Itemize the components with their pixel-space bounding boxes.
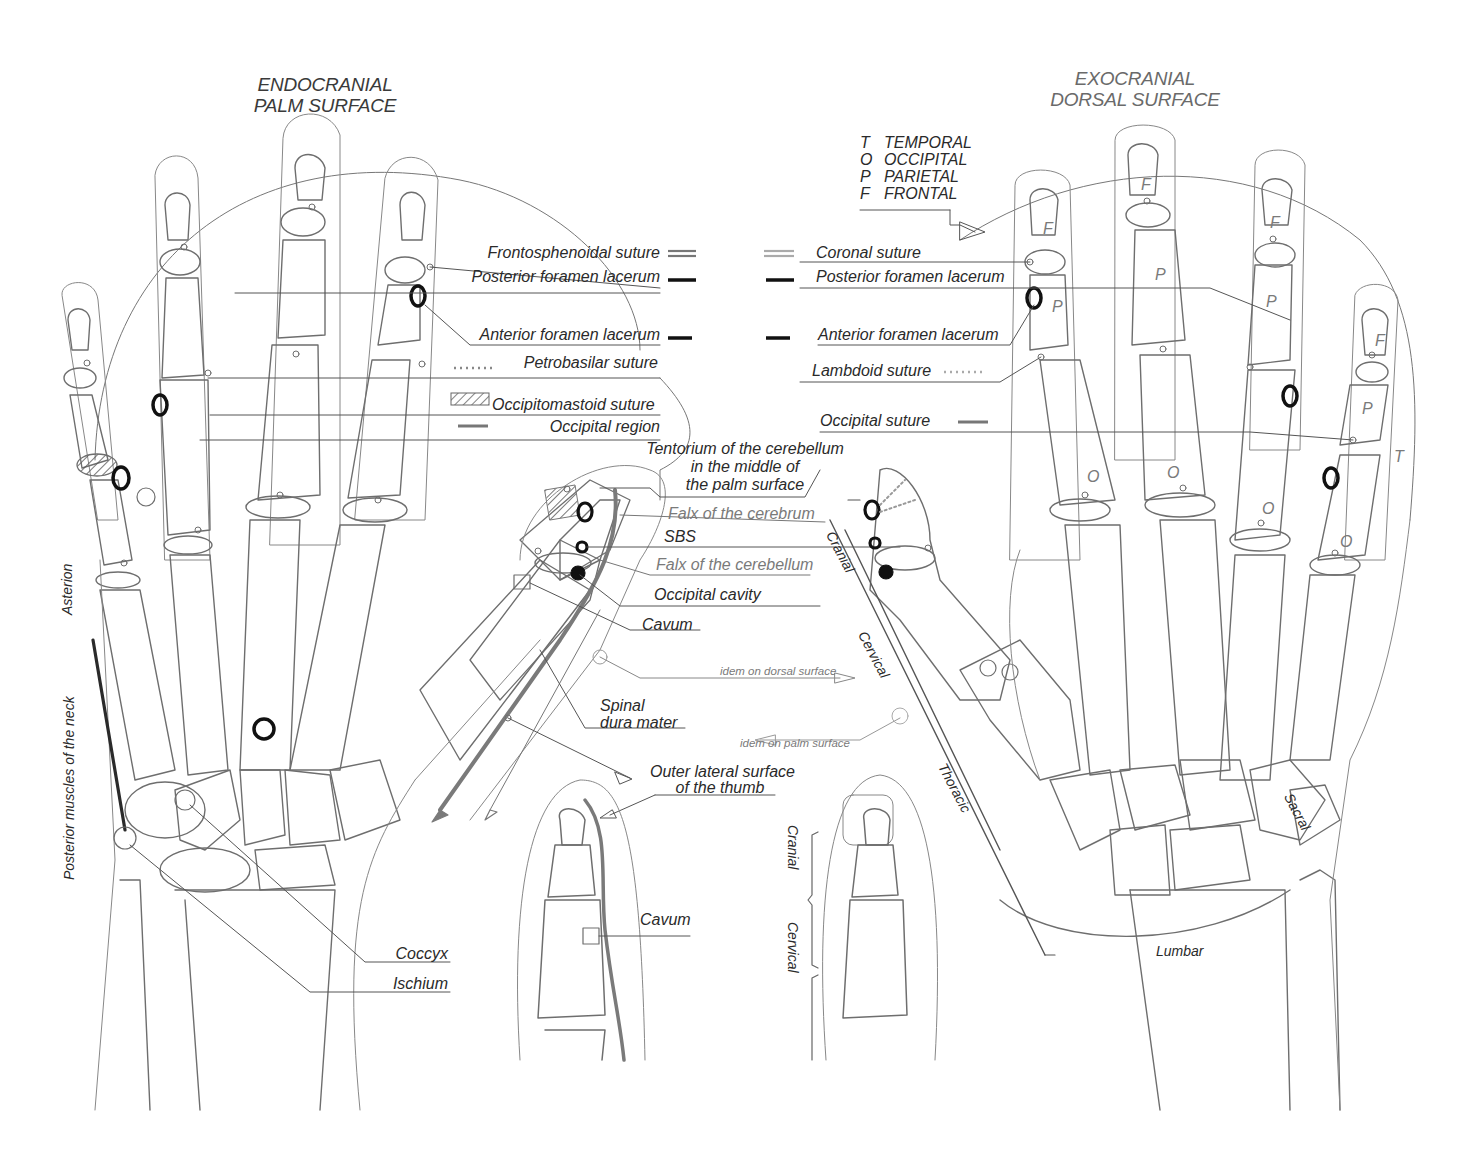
bone-letter-t: T [1394,448,1404,466]
ischium-label: Ischium [370,975,448,993]
asterion-label: Asterion [58,564,76,615]
left-title-line1: ENDOCRANIAL [230,74,420,95]
idem-dorsal-label: idem on dorsal surface [720,662,836,680]
bone-key: TTEMPORAL OOCCIPITAL PPARIETAL FFRONTAL [860,134,972,202]
bone-letter-o: O [1262,500,1274,518]
legend-left-petrobasilar: Petrobasilar suture [480,354,658,372]
thumb-cervical-label: Cervical [784,922,802,973]
thick-line-icon [764,276,796,284]
left-title-line2: PALM SURFACE [230,95,420,116]
occipital-cavity-label: Occipital cavity [654,586,761,604]
left-title: ENDOCRANIAL PALM SURFACE [230,74,420,116]
bone-letter-o: O [1167,464,1179,482]
right-title: EXOCRANIAL DORSAL SURFACE [1045,68,1225,110]
bone-letter-f: F [1270,214,1280,232]
legend-left-occipitomastoid: Occipitomastoid suture [492,396,655,414]
double-line-icon [668,248,698,260]
cavum-bottom-label: Cavum [640,911,691,929]
legend-right-posterior-foramen: Posterior foramen lacerum [816,268,1005,286]
legend-left-anterior-foramen: Anterior foramen lacerum [420,326,660,344]
double-line-icon [762,248,796,260]
bone-letter-o: O [1340,533,1352,551]
thick-line-icon [668,276,698,284]
grey-line-icon [956,418,990,426]
sbs-label: SBS [664,528,696,546]
right-title-line1: EXOCRANIAL [1045,68,1225,89]
hatched-box-icon [450,392,490,406]
cavum-label: Cavum [642,616,693,634]
tentorium-label: Tentorium of the cerebellum in the middl… [630,440,860,494]
bone-key-row: OOCCIPITAL [860,151,972,168]
bone-letter-f: F [1141,176,1151,194]
legend-right-anterior-foramen: Anterior foramen lacerum [818,326,999,344]
thumb-cranial-label: Cranial [784,825,802,869]
bone-letter-f: F [1375,332,1385,350]
bone-letter-o: O [1087,468,1099,486]
falx-cerebellum-label: Falx of the cerebellum [656,556,813,574]
legend-left-frontosphenoidal: Frontosphenoidal suture [440,244,660,262]
legend-right-coronal: Coronal suture [816,244,921,262]
short-thick-line-icon [764,334,792,342]
hand-illustration [0,0,1460,1168]
coccyx-label: Coccyx [370,945,448,963]
bone-key-row: TTEMPORAL [860,134,972,151]
outer-lateral-surface-label: Outer lateral surface of the thumb [650,764,790,796]
bone-key-row: FFRONTAL [860,185,972,202]
bone-letter-p: P [1362,400,1373,418]
legend-left-occipital-region: Occipital region [480,418,660,436]
right-title-line2: DORSAL SURFACE [1045,89,1225,110]
legend-right-occipital-suture: Occipital suture [820,412,930,430]
bone-letter-f: F [1043,220,1053,238]
spine-lumbar-label: Lumbar [1156,942,1203,960]
dotted-line-icon [942,368,986,376]
bone-letter-p: P [1266,293,1277,311]
legend-left-posterior-foramen: Posterior foramen lacerum [420,268,660,286]
bone-letter-p: P [1155,266,1166,284]
idem-palm-label: idem on palm surface [740,734,850,752]
posterior-muscles-label: Posterior muscles of the neck [60,696,78,880]
falx-cerebrum-label: Falx of the cerebrum [668,505,815,523]
bone-letter-p: P [1052,298,1063,316]
legend-right-lambdoid: Lambdoid suture [812,362,931,380]
spinal-dura-mater-label: Spinal dura mater [600,697,677,731]
bone-key-row: PPARIETAL [860,168,972,185]
short-thick-line-icon [668,334,694,342]
anatomy-diagram: ENDOCRANIAL PALM SURFACE EXOCRANIAL DORS… [0,0,1460,1168]
